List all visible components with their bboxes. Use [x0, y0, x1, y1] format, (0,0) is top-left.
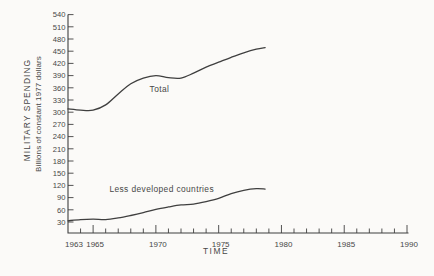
y-tick-label: 390 [53, 71, 66, 80]
x-tick-label: 1985 [337, 240, 355, 249]
y-tick-label: 150 [53, 169, 66, 178]
chart-canvas: 3060901201501802102402703003303603904204… [0, 0, 434, 276]
y-tick-label: 30 [57, 218, 65, 227]
y-axis-title: MILITARY SPENDING [22, 30, 32, 190]
y-tick-label: 540 [53, 10, 66, 19]
y-tick-label: 330 [53, 96, 66, 105]
y-tick-label: 90 [57, 193, 65, 202]
y-tick-label: 180 [53, 157, 66, 166]
series-label-0: Total [150, 84, 170, 94]
axes-lines [68, 15, 409, 233]
x-tick-label: 1963 [65, 240, 83, 249]
x-axis-title: TIME [176, 246, 256, 256]
x-tick-label: 1990 [400, 240, 418, 249]
series-line-0 [68, 48, 265, 111]
x-tick-label: 1970 [149, 240, 167, 249]
y-tick-label: 480 [53, 35, 66, 44]
y-axis-subtitle: Billions of constant 1977 dollars [34, 29, 44, 199]
y-tick-label: 210 [53, 145, 66, 154]
y-tick-label: 60 [57, 206, 65, 215]
y-tick-label: 360 [53, 84, 66, 93]
chart-page: 3060901201501802102402703003303603904204… [0, 0, 434, 276]
y-tick-label: 120 [53, 181, 66, 190]
y-tick-label: 450 [53, 47, 66, 56]
y-tick-label: 510 [53, 23, 66, 32]
y-tick-label: 240 [53, 132, 66, 141]
y-tick-label: 420 [53, 59, 66, 68]
series-label-1: Less developed countries [109, 184, 214, 194]
x-tick-label: 1965 [86, 240, 104, 249]
x-tick-label: 1980 [275, 240, 293, 249]
y-tick-label: 300 [53, 108, 66, 117]
y-tick-label: 270 [53, 120, 66, 129]
